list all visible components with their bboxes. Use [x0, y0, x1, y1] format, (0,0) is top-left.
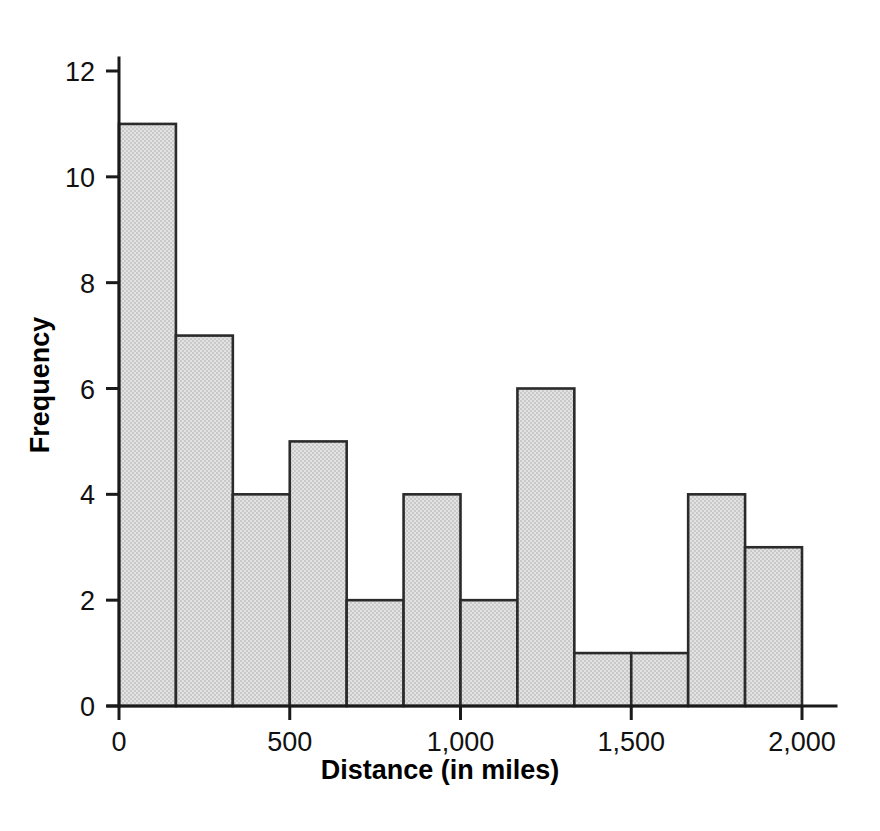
histogram-bar	[574, 653, 631, 706]
histogram-svg: 024681012 05001,0001,5002,000 Distance (…	[0, 0, 880, 831]
histogram-bar	[176, 336, 233, 706]
x-tick-label: 1,000	[427, 727, 495, 757]
x-tick-label: 1,500	[597, 727, 665, 757]
histogram-chart: 024681012 05001,0001,5002,000 Distance (…	[0, 0, 880, 831]
y-tick-label: 6	[80, 375, 95, 405]
y-tick-label: 12	[65, 57, 95, 87]
histogram-bar	[461, 600, 518, 706]
x-axis-title: Distance (in miles)	[321, 755, 560, 785]
y-axis-title: Frequency	[25, 317, 55, 454]
y-tick-label: 8	[80, 269, 95, 299]
histogram-bar	[119, 124, 176, 706]
histogram-bar	[290, 441, 347, 706]
x-tick-label: 2,000	[768, 727, 836, 757]
histogram-bar	[688, 494, 745, 706]
y-tick-label: 10	[65, 163, 95, 193]
x-tick-label: 500	[267, 727, 312, 757]
histogram-bar	[233, 494, 290, 706]
histogram-bar	[517, 389, 574, 707]
histogram-bar	[404, 494, 461, 706]
y-tick-label: 2	[80, 586, 95, 616]
y-tick-label: 0	[80, 692, 95, 722]
x-tick-label: 0	[111, 727, 126, 757]
histogram-bar	[745, 547, 802, 706]
histogram-bar	[631, 653, 688, 706]
y-tick-label: 4	[80, 480, 95, 510]
histogram-bar	[347, 600, 404, 706]
